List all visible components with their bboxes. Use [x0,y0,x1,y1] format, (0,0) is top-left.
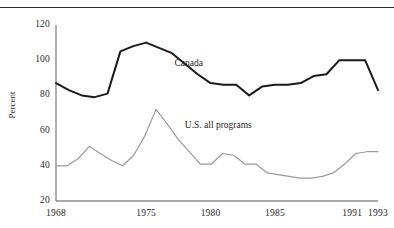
x-tick-label: 1975 [121,208,171,218]
series-annotation-label: Canada [174,58,203,68]
x-tick-label: 1985 [250,208,300,218]
series-line [56,43,378,98]
plot-area [0,0,394,228]
chart-figure: Percent 20406080100120 19681975198019851… [0,0,394,228]
series-annotation-label: U.S. all programs [185,120,252,130]
y-tick-label: 40 [18,160,50,170]
y-tick-label: 60 [18,125,50,135]
y-tick-label: 100 [18,54,50,64]
x-tick-label: 1993 [353,208,394,218]
series-lines [56,43,378,179]
y-tick-label: 20 [18,195,50,205]
y-tick-label: 120 [18,19,50,29]
x-tick-label: 1968 [31,208,81,218]
x-tick-label: 1980 [186,208,236,218]
y-tick-label: 80 [18,89,50,99]
